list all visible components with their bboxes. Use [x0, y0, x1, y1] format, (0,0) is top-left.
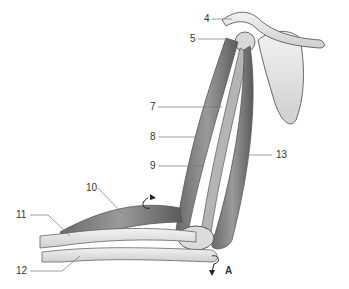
label-7: 7 [150, 102, 156, 112]
label-12: 12 [16, 266, 27, 276]
label-9: 9 [150, 161, 156, 171]
label-10: 10 [86, 183, 97, 193]
label-8: 8 [150, 132, 156, 142]
label-5: 5 [190, 34, 196, 44]
label-A: A [225, 266, 232, 276]
label-4: 4 [204, 14, 210, 24]
label-11: 11 [16, 210, 26, 220]
ulna [42, 248, 217, 262]
label-13: 13 [276, 150, 287, 160]
anatomy-illustration [0, 0, 349, 289]
